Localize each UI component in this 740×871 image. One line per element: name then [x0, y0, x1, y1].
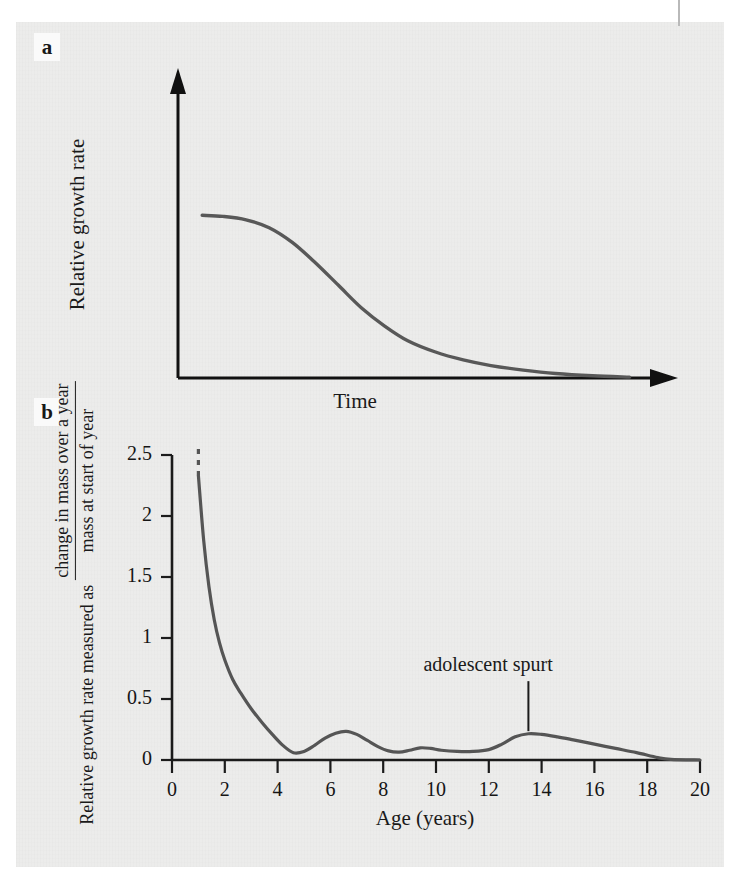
panel-b-x-tick-label-2: 2 [207, 778, 243, 801]
panel-b-x-tick-label-6: 6 [312, 778, 348, 801]
panel-b-x-tick-label-18: 18 [629, 778, 665, 801]
panel-b-y-tick-label-2: 2 [106, 503, 152, 526]
panel-b-y-tick-label-0: 0 [106, 747, 152, 770]
panel-b-y-tick-label-1: 1 [106, 625, 152, 648]
panel-b-x-tick-label-14: 14 [524, 778, 560, 801]
panel-b-x-tick-label-4: 4 [260, 778, 296, 801]
panel-b-x-tick-label-12: 12 [471, 778, 507, 801]
panel-b-x-tick-label-8: 8 [365, 778, 401, 801]
panel-b-x-axis-label: Age (years) [335, 806, 515, 831]
panel-b-y-tick-label-0.5: 0.5 [106, 686, 152, 709]
panel-b-y-axis-label-fraction: change in mass over a year mass at start… [52, 381, 98, 579]
panel-b-y-tick-label-1.5: 1.5 [106, 564, 152, 587]
panel-b-y-axis-label-numerator: change in mass over a year [52, 381, 76, 579]
panel-b-y-axis-label-denominator: mass at start of year [76, 409, 99, 553]
panel-b-growth-curve [198, 476, 700, 760]
panel-b-x-tick-label-20: 20 [682, 778, 718, 801]
panel-b-plot [0, 0, 740, 871]
panel-b-y-axis-label: Relative growth rate measured as change … [52, 438, 98, 768]
figure-page: a Relative growth rate Time b [0, 0, 740, 871]
panel-b-y-axis-label-lead: Relative growth rate measured as [77, 585, 98, 825]
panel-b-x-tick-label-0: 0 [154, 778, 190, 801]
panel-b-x-tick-label-16: 16 [576, 778, 612, 801]
panel-b-y-tick-label-2.5: 2.5 [106, 442, 152, 465]
adolescent-spurt-annotation: adolescent spurt [423, 653, 552, 676]
panel-b-x-tick-label-10: 10 [418, 778, 454, 801]
